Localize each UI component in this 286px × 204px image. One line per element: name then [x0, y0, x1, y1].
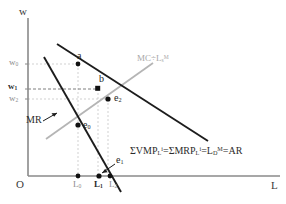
- point-a-marker: [76, 62, 81, 67]
- y-tick-w2: w2: [9, 94, 18, 104]
- x-tick-L1: L1: [94, 180, 103, 190]
- x-axis-label: L: [271, 180, 278, 191]
- demand-equation-label: ΣVMPLi=ΣMRPLi=LDM=AR: [130, 146, 242, 157]
- eq-part-2: =ΣMRPLi: [163, 145, 201, 156]
- y-tick-w1-sub: 1: [15, 85, 18, 91]
- point-label-e1: e1: [116, 155, 124, 166]
- point-e1-marker: [96, 173, 101, 178]
- y-tick-w0: w0: [9, 58, 18, 68]
- mr-curve-label: MR: [26, 115, 42, 125]
- point-label-a: a: [77, 51, 81, 61]
- point-label-e0-sub: 0: [87, 123, 90, 130]
- mc-curve-label: MC÷LsM: [137, 54, 169, 64]
- y-tick-w2-sub: 2: [16, 97, 19, 103]
- eq-part-3: =LDM: [201, 145, 223, 156]
- eq-part-3-text: =L: [201, 145, 213, 156]
- eq-part-2-text: =ΣMRP: [163, 145, 196, 156]
- point-label-b: b: [99, 74, 104, 84]
- point-e2-marker: [105, 96, 110, 101]
- y-tick-w0-sub: 0: [16, 61, 19, 67]
- point-e0-marker: [75, 122, 80, 127]
- diagram-svg: [0, 0, 286, 204]
- point-L0-marker: [76, 174, 81, 179]
- point-label-e2: e2: [114, 93, 122, 104]
- point-label-e2-sub: 2: [118, 96, 121, 103]
- eq-part-1-text: ΣVMP: [130, 145, 158, 156]
- eq-part-1: ΣVMPLi: [130, 145, 163, 156]
- eq-part-4: =AR: [223, 145, 243, 156]
- y-axis-label: w: [19, 6, 27, 17]
- point-b-marker: [95, 86, 100, 91]
- point-label-e1-sub: 1: [120, 158, 123, 165]
- mr-pointer-arrow: [43, 113, 57, 121]
- x-tick-L0: L0: [73, 180, 81, 190]
- mc-curve-label-text: MC÷L: [137, 53, 161, 63]
- mc-curve-label-sup: M: [164, 54, 169, 60]
- x-tick-L2: L2: [109, 180, 117, 190]
- point-L2-marker: [108, 174, 113, 179]
- diagram-canvas: w L O w0 w1 w2 L0 L1 L2 a b e0 e1 e2 MR …: [0, 0, 286, 204]
- y-tick-w1: w1: [8, 82, 17, 92]
- x-tick-L2-sub: 2: [115, 183, 118, 189]
- point-label-e0: e0: [83, 120, 91, 131]
- x-tick-L1-sub: 1: [100, 183, 103, 189]
- origin-label: O: [16, 179, 24, 190]
- eq-part-4-text: =AR: [223, 145, 243, 156]
- x-tick-L0-sub: 0: [79, 183, 82, 189]
